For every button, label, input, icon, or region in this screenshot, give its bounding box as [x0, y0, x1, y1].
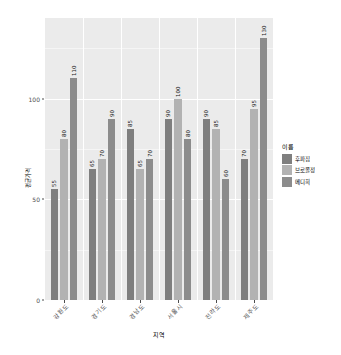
x-axis-tick-label: 서울시 — [165, 302, 184, 321]
bar: 70 — [241, 159, 249, 300]
x-axis-tick-label: 경남도 — [127, 302, 146, 321]
bar-value-label: 65 — [137, 160, 143, 167]
x-axis-tick-label: 강원도 — [51, 302, 70, 321]
legend-color-swatch — [282, 154, 292, 164]
bar-value-label: 70 — [99, 150, 105, 157]
bar-value-label: 55 — [51, 180, 57, 187]
bar: 80 — [184, 139, 192, 300]
bar-value-label: 60 — [223, 170, 229, 177]
x-axis-tick-marks — [45, 300, 273, 303]
bar-value-label: 85 — [213, 120, 219, 127]
bar: 85 — [127, 129, 135, 300]
bar: 110 — [70, 78, 78, 300]
legend-item: 후파집 — [282, 153, 338, 164]
bar: 130 — [260, 38, 268, 300]
legend-items: 후파집브로콜정메디희 — [282, 153, 338, 187]
bar-value-label: 80 — [61, 130, 67, 137]
bar: 80 — [60, 139, 68, 300]
bar-value-label: 110 — [71, 66, 77, 77]
y-axis-tick-label: 0 — [36, 297, 40, 304]
legend-item-label: 브로콜정 — [295, 166, 315, 174]
bar-value-label: 95 — [251, 100, 257, 107]
bar-value-label: 90 — [203, 110, 209, 117]
bar-value-label: 70 — [147, 150, 153, 157]
y-axis-tick-label: 100 — [29, 95, 40, 102]
legend-item-label: 메디희 — [295, 178, 310, 186]
bar: 55 — [51, 189, 59, 300]
legend-color-swatch — [282, 165, 292, 175]
bars-layer: 558011065709085657090100809085607095130 — [45, 18, 273, 300]
legend-color-swatch — [282, 177, 292, 187]
bar: 70 — [146, 159, 154, 300]
bar-chart: 평균가격 050100 5580110657090856570901008090… — [0, 0, 341, 355]
bar-value-label: 100 — [175, 86, 181, 97]
bar: 95 — [250, 109, 258, 300]
bar-value-label: 80 — [185, 130, 191, 137]
legend: 이름 후파집브로콜정메디희 — [282, 143, 338, 188]
x-axis-tick-label: 경기도 — [89, 302, 108, 321]
legend-item: 브로콜정 — [282, 165, 338, 176]
bar: 90 — [203, 119, 211, 300]
bar: 60 — [222, 179, 230, 300]
x-axis-title: 지역 — [45, 330, 273, 339]
bar-value-label: 70 — [241, 150, 247, 157]
x-axis-tick-label: 전라도 — [203, 302, 222, 321]
legend-item-label: 후파집 — [295, 155, 310, 163]
bar-value-label: 65 — [89, 160, 95, 167]
bar: 100 — [174, 99, 182, 300]
bar-value-label: 85 — [127, 120, 133, 127]
plot-panel: 558011065709085657090100809085607095130 — [45, 18, 273, 300]
bar-value-label: 90 — [109, 110, 115, 117]
y-axis-tick-mark — [42, 98, 45, 99]
y-axis-tick-mark — [42, 300, 45, 301]
x-axis-ticks: 강원도경기도경남도서울시전라도제주도 — [45, 304, 273, 330]
bar-value-label: 90 — [165, 110, 171, 117]
bar: 65 — [136, 169, 144, 300]
bar-value-label: 130 — [261, 26, 267, 37]
bar: 70 — [98, 159, 106, 300]
x-axis-tick-label: 제주도 — [241, 302, 260, 321]
bar: 90 — [165, 119, 173, 300]
bar: 90 — [108, 119, 116, 300]
y-axis-tick-label: 50 — [32, 196, 40, 203]
y-axis-tick-mark — [42, 199, 45, 200]
legend-item: 메디희 — [282, 176, 338, 187]
y-axis-ticks: 050100 — [26, 18, 44, 300]
bar: 65 — [89, 169, 97, 300]
bar: 85 — [212, 129, 220, 300]
legend-title: 이름 — [282, 143, 338, 151]
